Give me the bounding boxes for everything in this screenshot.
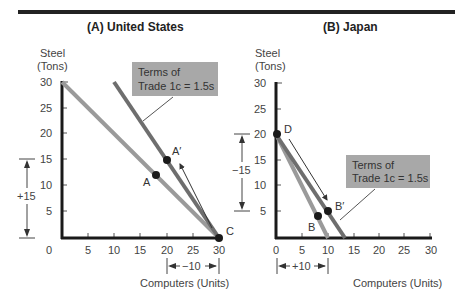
point-b [314, 212, 322, 220]
y-ticks-japan: 30 25 20 15 10 5 [254, 77, 266, 217]
svg-text:0: 0 [46, 244, 52, 256]
point-b-prime-label: B′ [335, 200, 344, 212]
svg-text:30: 30 [254, 77, 266, 89]
svg-text:20: 20 [254, 128, 266, 140]
svg-text:5: 5 [260, 205, 266, 217]
point-c [215, 234, 223, 242]
y-axis-label-units-japan: (Tons) [255, 60, 286, 72]
span-vertical-us: +15 [17, 159, 36, 238]
point-d [273, 130, 281, 138]
svg-text:30: 30 [40, 76, 52, 88]
svg-text:+10: +10 [292, 260, 311, 272]
point-a-label: A [143, 176, 151, 188]
y-ticks-us: 30 25 20 15 10 5 0 [40, 76, 52, 256]
panel-title-us: (A) United States [87, 20, 184, 34]
svg-text:10: 10 [322, 244, 334, 256]
span-vertical-japan: −15 [232, 134, 251, 211]
svg-text:30: 30 [213, 244, 225, 256]
point-b-label: B [308, 221, 315, 233]
trade-arrow-us [180, 164, 212, 228]
svg-text:10: 10 [254, 179, 266, 191]
svg-text:Trade 1c = 1.5s: Trade 1c = 1.5s [352, 172, 429, 184]
top-rule [18, 10, 455, 14]
svg-text:20: 20 [373, 244, 385, 256]
y-axis-label-us: Steel [40, 47, 65, 59]
point-a-prime-label: A′ [172, 145, 181, 157]
svg-text:25: 25 [187, 244, 199, 256]
point-a [152, 171, 160, 179]
svg-text:0: 0 [273, 244, 279, 256]
svg-text:15: 15 [134, 244, 146, 256]
callout-leader-us [143, 97, 173, 121]
svg-text:30: 30 [425, 244, 437, 256]
svg-text:Terms of: Terms of [352, 159, 395, 171]
svg-text:10: 10 [40, 179, 52, 191]
svg-text:5: 5 [46, 205, 52, 217]
callout-leader-japan [340, 189, 375, 220]
svg-text:20: 20 [161, 244, 173, 256]
trade-figure: (A) United States Steel (Tons) 30 25 20 … [0, 0, 455, 299]
point-d-label: D [284, 123, 292, 135]
point-b-prime [324, 207, 332, 215]
svg-text:Terms of: Terms of [138, 66, 181, 78]
svg-text:25: 25 [398, 244, 410, 256]
svg-text:Trade 1c = 1.5s: Trade 1c = 1.5s [138, 80, 215, 92]
panel-title-japan: (B) Japan [323, 20, 378, 34]
svg-text:10: 10 [108, 244, 120, 256]
svg-text:20: 20 [40, 127, 52, 139]
y-axis-label-japan: Steel [255, 47, 280, 59]
panel-united-states: (A) United States Steel (Tons) 30 25 20 … [17, 20, 234, 289]
svg-text:15: 15 [254, 154, 266, 166]
svg-text:5: 5 [85, 244, 91, 256]
svg-text:15: 15 [348, 244, 360, 256]
ppf-line-us [62, 82, 219, 238]
svg-text:+15: +15 [17, 190, 36, 202]
svg-text:15: 15 [40, 153, 52, 165]
x-ticks-japan: 0 5 10 15 20 25 30 [273, 244, 437, 256]
span-horizontal-japan: +10 [277, 258, 328, 274]
svg-text:25: 25 [254, 103, 266, 115]
x-axis-label-japan: Computers (Units) [353, 277, 442, 289]
svg-text:25: 25 [40, 102, 52, 114]
point-c-label: C [226, 225, 234, 237]
ppf-line-japan [277, 136, 328, 238]
point-a-prime [163, 156, 171, 164]
svg-text:−15: −15 [232, 164, 251, 176]
x-axis-label-us: Computers (Units) [140, 277, 229, 289]
x-ticks-us: 5 10 15 20 25 30 [85, 244, 225, 256]
panel-japan: (B) Japan Steel (Tons) 30 25 20 15 10 5 … [232, 20, 442, 289]
svg-text:−10: −10 [182, 260, 201, 272]
y-axis-label-units-us: (Tons) [37, 60, 68, 72]
span-horizontal-us: −10 [167, 258, 219, 274]
svg-text:5: 5 [299, 244, 305, 256]
